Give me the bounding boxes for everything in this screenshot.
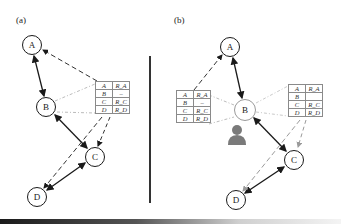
node-label: D xyxy=(233,195,240,205)
table-row: B– xyxy=(96,90,130,98)
table-row: DR_D xyxy=(177,115,211,123)
panel-b-edges xyxy=(194,55,306,193)
node-label: C xyxy=(92,152,98,162)
node-label: D xyxy=(34,192,41,202)
table-row: CR_C xyxy=(177,107,211,115)
panel-a-label: (a) xyxy=(16,15,26,25)
panel-divider xyxy=(149,56,151,203)
node-b-compromised: B xyxy=(234,99,256,121)
bottom-border xyxy=(0,219,341,224)
node-label: A xyxy=(29,40,36,50)
table-row: B xyxy=(289,93,323,101)
node-label: A xyxy=(227,42,234,52)
table-row: B– xyxy=(177,99,211,107)
person-icon xyxy=(227,124,247,146)
node-a: A xyxy=(22,35,42,55)
table-row: DR_D xyxy=(289,109,323,117)
figure-canvas: (a) A B C D AR_A B– CR_C DR_D (b) A B C … xyxy=(0,0,341,224)
node-c: C xyxy=(284,150,304,170)
node-label: B xyxy=(43,102,49,112)
node-a: A xyxy=(220,37,240,57)
table-row: AR_A xyxy=(96,82,130,90)
table-row: CR_C xyxy=(96,98,130,106)
table-row: CR_C xyxy=(289,101,323,109)
routing-table-left: AR_A B– CR_C DR_D xyxy=(176,90,211,123)
routing-table-right: AR_A B CR_C DR_D xyxy=(288,84,323,117)
node-c: C xyxy=(85,147,105,167)
routing-table-b: AR_A B– CR_C DR_D xyxy=(95,81,130,114)
table-row: AR_A xyxy=(289,85,323,93)
node-label: C xyxy=(291,155,297,165)
node-d: D xyxy=(27,187,47,207)
node-d: D xyxy=(226,190,246,210)
table-row: AR_A xyxy=(177,91,211,99)
node-b: B xyxy=(36,97,56,117)
panel-b-label: (b) xyxy=(174,15,185,25)
table-row: DR_D xyxy=(96,106,130,114)
node-label: B xyxy=(242,105,248,115)
panel-a-edges xyxy=(34,50,110,190)
